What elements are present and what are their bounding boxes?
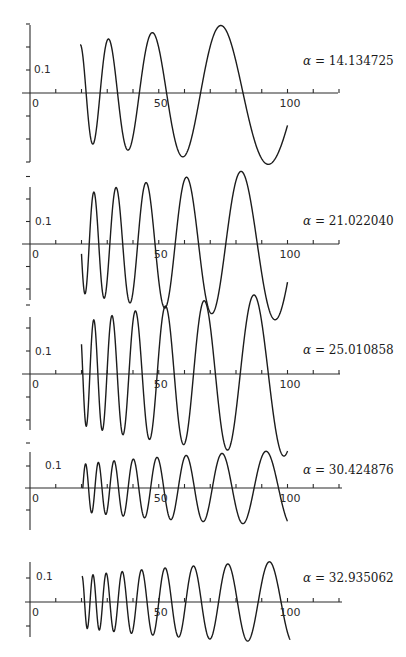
alpha-symbol: α xyxy=(303,463,311,477)
plot-area xyxy=(0,545,406,657)
alpha-value: 21.022040 xyxy=(329,214,394,228)
y-tick-label: 0.1 xyxy=(34,64,51,75)
equals-sign: = xyxy=(311,571,329,585)
x-tick-label: 50 xyxy=(154,249,168,260)
x-tick-label: 100 xyxy=(280,249,301,260)
equals-sign: = xyxy=(311,463,329,477)
alpha-annotation: α = 32.935062 xyxy=(303,572,394,584)
x-tick-label: 50 xyxy=(154,98,168,109)
plot-area xyxy=(0,305,406,430)
alpha-symbol: α xyxy=(303,571,311,585)
x-tick-label: 50 xyxy=(154,493,168,504)
x-tick-label: 50 xyxy=(154,607,168,618)
equals-sign: = xyxy=(311,54,329,68)
alpha-value: 30.424876 xyxy=(329,463,394,477)
y-tick-label: 0.1 xyxy=(36,571,53,582)
plot-area xyxy=(0,430,406,545)
alpha-value: 32.935062 xyxy=(329,571,394,585)
x-tick-label: 0 xyxy=(32,98,39,109)
x-tick-label: 0 xyxy=(32,249,39,260)
equals-sign: = xyxy=(311,214,329,228)
data-curve xyxy=(80,26,287,165)
x-tick-label: 50 xyxy=(154,379,168,390)
alpha-symbol: α xyxy=(303,343,311,357)
x-tick-label: 100 xyxy=(280,607,301,618)
panel-5: 0501000.1α = 32.935062 xyxy=(0,545,406,657)
plot-area xyxy=(0,0,406,175)
y-tick-label: 0.1 xyxy=(45,460,62,471)
panel-3: 0501000.1α = 25.010858 xyxy=(0,305,406,430)
alpha-value: 14.134725 xyxy=(329,54,394,68)
x-tick-label: 100 xyxy=(280,379,301,390)
plot-area xyxy=(0,175,406,305)
y-tick-label: 0.1 xyxy=(35,346,52,357)
alpha-annotation: α = 25.010858 xyxy=(303,344,394,356)
x-tick-label: 0 xyxy=(32,379,39,390)
alpha-annotation: α = 21.022040 xyxy=(303,215,394,227)
panel-1: 0501000.1α = 14.134725 xyxy=(0,0,406,175)
figure: 0501000.1α = 14.134725 0501000.1α = 21.0… xyxy=(0,0,406,657)
y-tick-label: 0.1 xyxy=(35,216,52,227)
x-tick-label: 0 xyxy=(32,607,39,618)
alpha-annotation: α = 30.424876 xyxy=(303,464,394,476)
alpha-annotation: α = 14.134725 xyxy=(303,55,394,67)
panel-2: 0501000.1α = 21.022040 xyxy=(0,175,406,305)
alpha-value: 25.010858 xyxy=(329,343,394,357)
x-tick-label: 100 xyxy=(280,493,301,504)
x-tick-label: 100 xyxy=(280,98,301,109)
alpha-symbol: α xyxy=(303,214,311,228)
alpha-symbol: α xyxy=(303,54,311,68)
x-tick-label: 0 xyxy=(32,493,39,504)
equals-sign: = xyxy=(311,343,329,357)
panel-4: 0501000.1α = 30.424876 xyxy=(0,430,406,545)
